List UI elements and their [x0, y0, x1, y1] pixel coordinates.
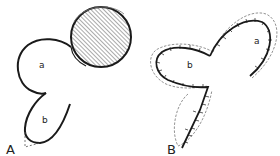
- region-label-a: a: [39, 60, 45, 70]
- dashed-triangle: [25, 132, 40, 147]
- panel-a: a b A: [6, 7, 131, 156]
- region-label-a: a: [254, 36, 260, 46]
- region-label-b: b: [42, 115, 48, 125]
- dashed-outline: [151, 13, 277, 146]
- hatched-circle: [71, 7, 131, 67]
- panel-label-b: B: [167, 142, 176, 156]
- region-label-b: b: [187, 60, 193, 70]
- diagram-canvas: a b A: [0, 0, 280, 156]
- panel-label-a: A: [6, 142, 15, 156]
- panel-b: a b B: [151, 13, 277, 156]
